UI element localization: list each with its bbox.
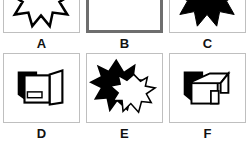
house-with-shadow-icon	[170, 54, 245, 122]
option-grid: A B C	[0, 0, 249, 143]
overlapping-starbursts-icon	[87, 54, 162, 122]
option-label-a: A	[0, 36, 83, 51]
filled-starburst-icon	[170, 0, 245, 32]
option-cell-b: B	[83, 0, 166, 53]
option-cell-a: A	[0, 0, 83, 53]
outlined-starburst-icon	[4, 0, 79, 32]
option-cell-e: E	[83, 53, 166, 143]
option-panel-c[interactable]	[169, 0, 246, 33]
option-label-d: D	[0, 126, 83, 141]
option-label-c: C	[166, 36, 249, 51]
option-cell-d: D	[0, 53, 83, 143]
box-with-open-flap-and-shadow-icon	[4, 54, 79, 122]
option-label-e: E	[83, 126, 166, 141]
option-row-top: A B C	[0, 0, 249, 53]
option-panel-a[interactable]	[3, 0, 80, 33]
option-row-bottom: D E	[0, 53, 249, 143]
option-label-f: F	[166, 126, 249, 141]
outlined-box-with-flap-icon	[89, 0, 160, 30]
option-cell-c: C	[166, 0, 249, 53]
option-panel-b[interactable]	[86, 0, 163, 33]
option-panel-d[interactable]	[3, 53, 80, 123]
option-label-b: B	[83, 36, 166, 51]
option-panel-e[interactable]	[86, 53, 163, 123]
option-panel-f[interactable]	[169, 53, 246, 123]
option-cell-f: F	[166, 53, 249, 143]
